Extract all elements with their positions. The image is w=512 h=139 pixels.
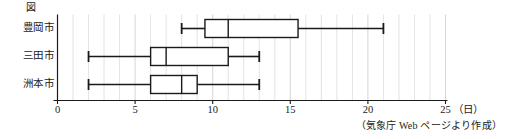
box-plot-1 [182, 20, 384, 38]
x-tick-label-10: 10 [207, 104, 218, 116]
box-iqr [151, 48, 229, 66]
figure-container: 図 豊岡市 三田市 洲本市 0 5 10 15 20 25 （日） （気象庁 W… [0, 0, 512, 139]
x-tick-label-20: 20 [363, 104, 374, 116]
source-note: （気象庁 Web ページより作成） [356, 120, 502, 132]
x-tick-label-5: 5 [132, 104, 137, 116]
box-iqr [205, 20, 298, 38]
box-plot-3 [89, 76, 260, 94]
x-tick-label-15: 15 [285, 104, 296, 116]
box-plots [89, 20, 384, 94]
x-axis-unit-label: （日） [453, 104, 483, 116]
box-plot-2 [89, 48, 260, 66]
box-iqr [151, 76, 198, 94]
x-tick-label-0: 0 [55, 104, 60, 116]
boxplot-svg [0, 0, 512, 139]
x-tick-label-25: 25 [440, 104, 451, 116]
